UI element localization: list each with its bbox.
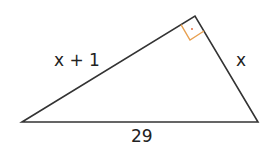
leg-right-label: x [236,50,246,70]
hypotenuse-label: 29 [131,126,153,144]
right-angle-marker [181,25,204,40]
triangle-diagram: x + 1 x 29 [0,0,266,144]
right-angle-dot [191,28,193,30]
leg-left-label: x + 1 [54,50,100,70]
